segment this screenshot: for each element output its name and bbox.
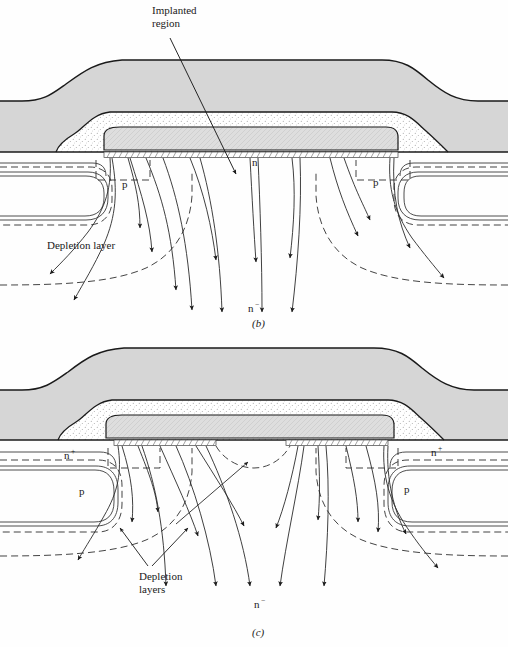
depletion-layers-label-line1: Depletion xyxy=(139,570,183,582)
depletion-layer-label-b: Depletion layer xyxy=(47,239,115,251)
p-body-label-right-c: p xyxy=(404,483,410,495)
svg-text:n: n xyxy=(431,446,437,458)
svg-text:−: − xyxy=(255,300,259,309)
gate-electrode-c xyxy=(106,415,394,438)
p-body-label-left-c: p xyxy=(79,485,85,497)
svg-text:n: n xyxy=(64,449,70,461)
n-region-label-b: n xyxy=(252,156,258,168)
device-cross-section-svg: Implanted region n p p Depletion layer n… xyxy=(0,0,508,647)
implanted-region-label-line2: region xyxy=(152,17,181,29)
channel-band-b xyxy=(104,152,398,158)
p-body-label-left-b: p xyxy=(122,178,128,190)
svg-text:−: − xyxy=(261,596,265,605)
svg-text:n: n xyxy=(254,598,260,610)
svg-text:+: + xyxy=(438,444,442,453)
figure-canvas: Implanted region n p p Depletion layer n… xyxy=(0,0,508,647)
implanted-region-label-line1: Implanted xyxy=(152,4,197,16)
gate-electrode-b xyxy=(104,127,398,150)
depletion-layers-label-line2: layers xyxy=(139,583,165,595)
p-body-label-right-b: p xyxy=(373,176,379,188)
panel-b-caption: (b) xyxy=(252,317,265,330)
svg-text:n: n xyxy=(248,302,254,314)
panel-c-caption: (c) xyxy=(252,626,265,639)
svg-text:+: + xyxy=(71,447,75,456)
